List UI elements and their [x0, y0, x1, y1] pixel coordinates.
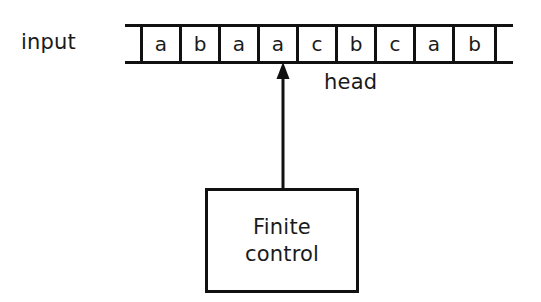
tape-cell: b: [455, 27, 494, 61]
tape-cell-list: a b a a c b c a b: [143, 27, 494, 61]
tape-cell: b: [182, 27, 221, 61]
input-tape: a b a a c b c a b: [125, 24, 513, 64]
tape-cell: c: [377, 27, 416, 61]
tape-cell: a: [143, 27, 182, 61]
input-label: input: [21, 30, 76, 54]
tape-left-blank-cell: [125, 27, 143, 61]
head-arrow-icon: [274, 62, 292, 190]
head-label: head: [324, 70, 377, 94]
tape-cell: a: [416, 27, 455, 61]
finite-automaton-figure: input a b a a c b c a b head Finite cont…: [0, 0, 541, 302]
finite-control-label-line1: Finite: [253, 214, 311, 241]
finite-control-box: Finite control: [205, 188, 359, 293]
tape-cell: c: [299, 27, 338, 61]
tape-cell: a: [260, 27, 299, 61]
finite-control-label-line2: control: [245, 241, 319, 268]
head-arrow-tip: [277, 62, 290, 79]
tape-right-blank-cell: [494, 27, 513, 61]
tape-cell: b: [338, 27, 377, 61]
tape-cell: a: [221, 27, 260, 61]
